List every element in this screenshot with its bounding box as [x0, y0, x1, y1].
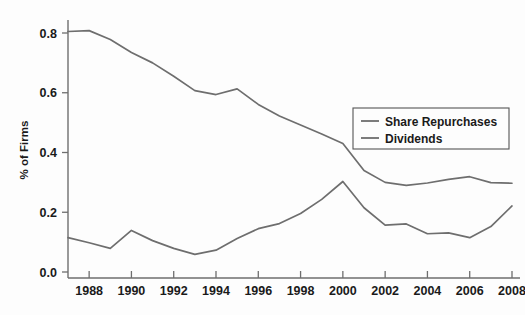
y-tick-label: 0.8: [40, 27, 57, 41]
x-tick-label: 2006: [456, 284, 484, 298]
x-tick-label: 1998: [287, 284, 315, 298]
chart-figure: 0.00.20.40.60.8 198819901992199419961998…: [0, 0, 525, 315]
x-tick-label: 1992: [160, 284, 188, 298]
line-chart: 0.00.20.40.60.8 198819901992199419961998…: [0, 0, 525, 315]
x-tick-label: 2000: [329, 284, 357, 298]
x-tick-label: 1988: [75, 284, 103, 298]
x-tick-label: 2004: [414, 284, 442, 298]
legend-label: Dividends: [385, 132, 443, 146]
y-axis-title: % of Firms: [18, 121, 30, 180]
x-tick-label: 2002: [371, 284, 399, 298]
y-tick-label: 0.4: [40, 146, 57, 160]
y-tick-label: 0.0: [40, 266, 57, 280]
legend-label: Share Repurchases: [385, 115, 497, 129]
x-tick-label: 1990: [118, 284, 146, 298]
x-tick-label: 1996: [244, 284, 272, 298]
series-line-share-repurchases: [68, 181, 512, 254]
y-tick-label: 0.6: [40, 86, 57, 100]
x-tick-label: 2008: [498, 284, 525, 298]
y-axis: 0.00.20.40.60.8: [40, 20, 68, 280]
x-axis: 1988199019921994199619982000200220042006…: [68, 271, 525, 298]
y-tick-label: 0.2: [40, 206, 57, 220]
chart-legend: Share RepurchasesDividends: [353, 108, 509, 149]
x-tick-label: 1994: [202, 284, 230, 298]
